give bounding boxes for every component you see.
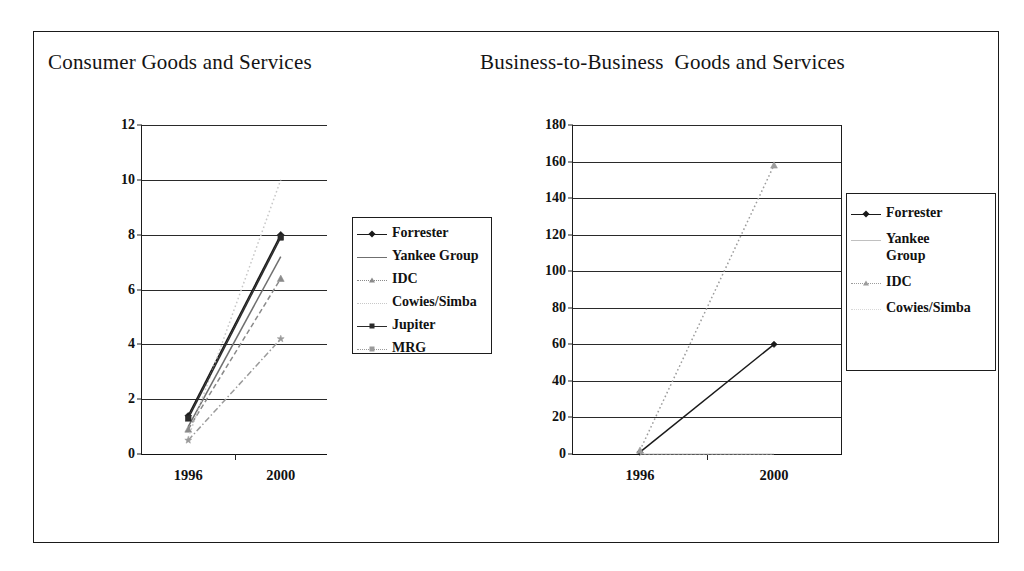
legend-item[interactable]: Yankee Group	[851, 230, 991, 264]
legend-swatch-icon	[357, 227, 387, 241]
legend-item-label: Yankee Group	[886, 230, 930, 264]
y-tick-label: 6	[128, 282, 135, 298]
legend-swatch-icon	[851, 233, 881, 247]
chart-panel-consumer: Consumer Goods and Services 024681012 19…	[34, 32, 504, 542]
legend-item-label: IDC	[392, 270, 418, 287]
legend-swatch-icon	[357, 273, 387, 287]
legend-b2b: ForresterYankee GroupIDCCowies/Simba	[846, 193, 996, 371]
legend-swatch-icon	[851, 207, 881, 221]
legend-item-label: Jupiter	[392, 316, 436, 333]
series-lines-b2b	[573, 125, 841, 454]
series-line	[188, 180, 281, 438]
page-title-b2b: Business-to-Business Goods and Services	[480, 50, 845, 75]
x-tick-label: 1996	[174, 467, 203, 484]
y-tick-label: 2	[128, 391, 135, 407]
plot-area-consumer: 024681012 19962000	[141, 125, 327, 455]
y-tick-label: 120	[545, 227, 566, 243]
y-tick-label: 10	[121, 172, 135, 188]
legend-swatch-icon	[851, 302, 881, 316]
y-tick-label: 180	[545, 117, 566, 133]
series-line	[188, 235, 281, 416]
y-tick-label: 60	[552, 336, 566, 352]
legend-item[interactable]: Cowies/Simba	[851, 299, 991, 316]
legend-swatch-icon	[357, 250, 387, 264]
legend-item[interactable]: Forrester	[851, 204, 991, 221]
legend-swatch-icon	[357, 296, 387, 310]
figure-frame: Consumer Goods and Services 024681012 19…	[33, 31, 999, 543]
x-tick-label: 1996	[626, 467, 655, 484]
legend-item-label: Cowies/Simba	[886, 299, 971, 316]
y-tick-label: 80	[552, 300, 566, 316]
data-point-marker	[771, 162, 778, 168]
data-point-marker	[185, 416, 191, 422]
x-tick-mark	[707, 454, 708, 460]
legend-item-label: Forrester	[886, 204, 942, 221]
series-line	[640, 165, 774, 450]
legend-item[interactable]: IDC	[851, 273, 991, 290]
series-line	[640, 344, 774, 452]
y-tick-label: 160	[545, 154, 566, 170]
data-point-marker	[278, 235, 284, 241]
y-tick-label: 12	[121, 117, 135, 133]
chart-panel-b2b: Business-to-Business Goods and Services …	[464, 32, 1000, 542]
series-line	[188, 237, 281, 418]
y-tick-label: 4	[128, 336, 135, 352]
legend-swatch-icon	[851, 276, 881, 290]
legend-swatch-icon	[357, 342, 387, 356]
x-tick-label: 2000	[266, 467, 295, 484]
x-tick-label: 2000	[760, 467, 789, 484]
y-tick-label: 40	[552, 373, 566, 389]
page-title-consumer: Consumer Goods and Services	[48, 50, 312, 75]
legend-item-label: MRG	[392, 339, 426, 356]
y-tick-label: 20	[552, 409, 566, 425]
legend-swatch-icon	[357, 319, 387, 333]
y-tick-label: 140	[545, 190, 566, 206]
y-tick-label: 8	[128, 227, 135, 243]
y-tick-label: 0	[128, 446, 135, 462]
plot-area-b2b: 020406080100120140160180 19962000	[572, 125, 842, 455]
data-point-marker	[277, 275, 284, 281]
series-lines-consumer	[142, 125, 327, 454]
legend-item-label: Forrester	[392, 224, 448, 241]
y-tick-label: 0	[559, 446, 566, 462]
legend-item-label: IDC	[886, 273, 912, 290]
y-tick-label: 100	[545, 263, 566, 279]
x-tick-mark	[235, 454, 236, 460]
